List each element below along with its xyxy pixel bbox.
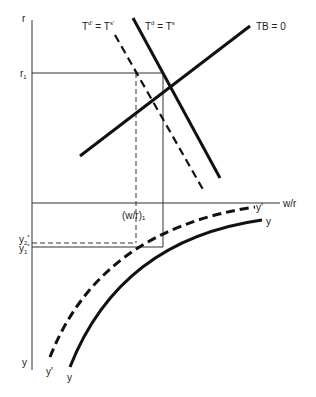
y-prime-end-label: y'	[256, 202, 263, 213]
svg-text:Td' = Ts': Td' = Ts'	[82, 20, 114, 32]
td-ts-prime-label: Td' = Ts'	[82, 20, 114, 32]
td-ts-label: Td = Ts	[145, 20, 175, 32]
axis-label-w-r: w/r	[282, 198, 297, 209]
y-prime-start-label: y'	[46, 366, 53, 377]
tb-zero-line	[80, 26, 250, 156]
r1-label: r1	[20, 68, 27, 80]
td-ts-prime-line	[115, 35, 205, 193]
tb-zero-label: TB = 0	[256, 21, 286, 32]
axis-label-r: r	[22, 13, 26, 24]
y-end-label: y	[266, 216, 271, 227]
svg-text:r1: r1	[20, 68, 27, 80]
y-start-label: y	[67, 372, 72, 383]
y-prime-curve	[50, 207, 255, 357]
y-curve	[70, 220, 262, 367]
economics-diagram: r y w/r TB = 0 Td = Ts Td' = Ts' r1 (w/r…	[0, 0, 316, 397]
w-r-1-label: (w/r)₁	[122, 210, 146, 221]
td-ts-line	[133, 18, 220, 178]
axis-label-y-bottom: y	[22, 357, 27, 368]
svg-text:Td = Ts: Td = Ts	[145, 20, 175, 32]
